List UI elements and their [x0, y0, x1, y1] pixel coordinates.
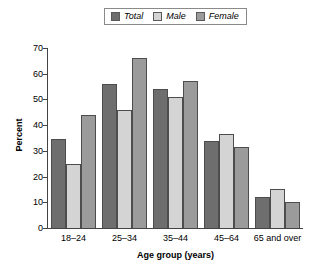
legend-entry-total: Total: [111, 12, 143, 21]
bar: [234, 147, 249, 228]
bar: [81, 115, 96, 228]
bar: [183, 81, 198, 228]
bar: [255, 197, 270, 228]
bar-group: [150, 48, 201, 228]
legend-entry-male: Male: [153, 12, 186, 21]
bar: [285, 202, 300, 228]
bar: [204, 141, 219, 228]
y-tick-mark: [43, 202, 47, 203]
bar-group: [201, 48, 252, 228]
y-axis-title: Percent: [14, 118, 24, 151]
y-tick-mark: [43, 74, 47, 75]
y-tick-mark: [43, 48, 47, 49]
legend-swatch-male: [153, 12, 162, 21]
y-tick-label: 50: [33, 95, 43, 104]
y-tick-mark: [43, 151, 47, 152]
bar: [66, 164, 81, 228]
bar-group: [99, 48, 150, 228]
bar-group: [252, 48, 303, 228]
bar: [219, 134, 234, 228]
bar: [132, 58, 147, 228]
bar: [270, 189, 285, 228]
y-tick-label: 60: [33, 69, 43, 78]
x-tick-label: 65 and over: [252, 233, 303, 243]
bar: [102, 84, 117, 228]
y-tick-label: 20: [33, 172, 43, 181]
legend-entry-female: Female: [196, 12, 239, 21]
x-tick-label: 35–44: [150, 233, 201, 243]
legend-label-male: Male: [166, 12, 186, 21]
chart-legend: Total Male Female: [104, 8, 247, 25]
y-tick-label: 40: [33, 121, 43, 130]
y-tick-mark: [43, 228, 47, 229]
y-tick-label: 30: [33, 146, 43, 155]
legend-swatch-total: [111, 12, 120, 21]
bar: [168, 97, 183, 228]
legend-label-total: Total: [124, 12, 143, 21]
x-tick-label: 25–34: [99, 233, 150, 243]
legend-label-female: Female: [209, 12, 239, 21]
y-tick-mark: [43, 177, 47, 178]
bar: [153, 89, 168, 228]
y-tick-label: 10: [33, 198, 43, 207]
bar-groups: [48, 48, 303, 228]
x-axis-title: Age group (years): [48, 250, 303, 260]
bar: [51, 139, 66, 228]
plot-area: 010203040506070: [47, 48, 303, 229]
bar-group: [48, 48, 99, 228]
x-tick-label: 45–64: [201, 233, 252, 243]
legend-swatch-female: [196, 12, 205, 21]
y-tick-mark: [43, 125, 47, 126]
bar: [117, 110, 132, 228]
x-tick-label: 18–24: [48, 233, 99, 243]
y-tick-label: 70: [33, 44, 43, 53]
x-axis-line: [47, 228, 303, 229]
x-axis-tick-labels: 18–2425–3435–4445–6465 and over: [48, 233, 303, 243]
y-tick-label: 0: [38, 224, 43, 233]
bar-chart: Total Male Female Percent 01020304050607…: [0, 0, 314, 270]
y-tick-mark: [43, 99, 47, 100]
